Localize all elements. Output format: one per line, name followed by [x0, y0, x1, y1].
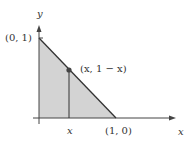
x-axis-arrow-icon — [169, 116, 176, 121]
triangle-diagram: y (0, 1) (x, 1 − x) x (1, 0) x — [0, 0, 191, 143]
right-vertex-label: (1, 0) — [105, 126, 132, 136]
x-tick-label: x — [67, 126, 73, 136]
x-axis-label: x — [178, 127, 184, 137]
sample-point-label: (x, 1 − x) — [80, 64, 127, 74]
top-vertex-label: (0, 1) — [5, 33, 32, 43]
y-axis-arrow-icon — [37, 25, 42, 32]
sample-point-dot — [66, 67, 71, 72]
y-axis-label: y — [37, 9, 43, 19]
